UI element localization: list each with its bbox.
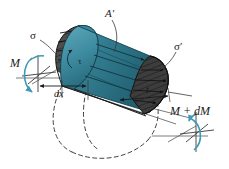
label-tau: τ <box>78 57 82 66</box>
label-sigma-prime: σ′ <box>174 41 182 52</box>
label-area-a-prime: A′ <box>105 8 114 19</box>
label-dx: dx <box>54 89 63 99</box>
label-thickness-t: t <box>146 85 149 95</box>
label-moment-m-plus-dm: M + dM <box>170 105 210 117</box>
label-sigma: σ <box>30 30 36 41</box>
beam-shear-stress-diagram: σ σ′ A′ τ M M + dM dx t <box>0 0 229 169</box>
diagram-canvas <box>0 0 229 169</box>
label-moment-m: M <box>10 57 20 69</box>
